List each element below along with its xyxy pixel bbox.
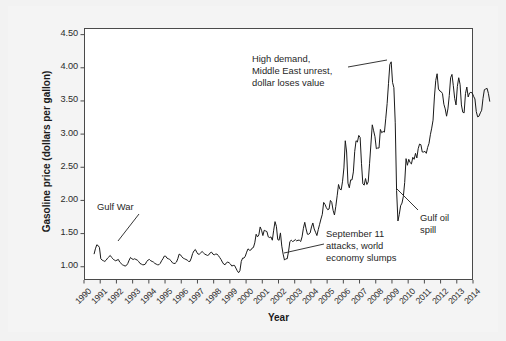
leader-line-gulf-war [118, 214, 139, 241]
x-axis-title: Year [84, 312, 473, 323]
y-axis-title: Gasoline price (dollars per gallon) [41, 32, 52, 272]
annotation-september-11: September 11 attacks, world economy slum… [326, 228, 396, 265]
annotation-gulf-war: Gulf War [97, 201, 134, 213]
leader-line-september-11 [284, 244, 324, 253]
price-line [94, 62, 490, 273]
figure-panel: 1.001.502.002.503.003.504.004.50 1990199… [8, 6, 498, 332]
leader-line-gulf-oil-spill [396, 188, 418, 210]
annotation-gulf-oil-spill: Gulf oil spill [420, 212, 449, 236]
chart-screenshot: 1.001.502.002.503.003.504.004.50 1990199… [0, 0, 506, 341]
annotation-high-demand: High demand, Middle East unrest, dollar … [252, 53, 332, 90]
leader-line-high-demand [348, 60, 387, 67]
